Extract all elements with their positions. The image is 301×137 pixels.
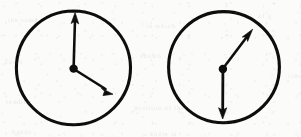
clock-right-center-hub bbox=[219, 65, 227, 73]
clock-figure: the samein whichof acasesshowntimereadin… bbox=[0, 0, 301, 137]
clock-left-minute-hand bbox=[74, 20, 75, 69]
clock-left-hour-hand-arrowhead bbox=[101, 88, 113, 96]
clock-left-hour-hand bbox=[75, 70, 106, 90]
clock-illustration bbox=[0, 0, 301, 137]
clock-left-center-hub bbox=[69, 64, 77, 72]
clock-right-minute-hand bbox=[223, 38, 246, 69]
clock-right bbox=[169, 12, 280, 123]
clock-left bbox=[16, 11, 130, 125]
